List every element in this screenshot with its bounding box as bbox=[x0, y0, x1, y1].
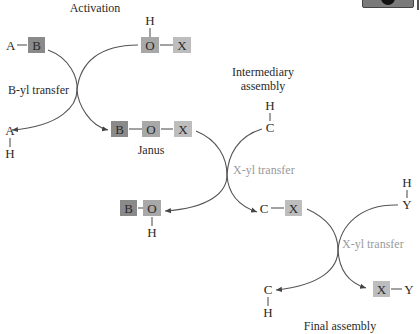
curve-to-CH bbox=[276, 209, 338, 290]
atom-H: H bbox=[265, 98, 274, 113]
atom-B: B bbox=[124, 201, 133, 216]
atom-X: X bbox=[178, 122, 188, 137]
molecule-H-Y: H Y bbox=[402, 175, 412, 212]
molecule-C-H: C H bbox=[263, 282, 272, 320]
atom-B: B bbox=[115, 122, 124, 137]
molecule-janus: B O X Janus bbox=[111, 121, 192, 157]
atom-H: H bbox=[147, 225, 156, 240]
transfer-label-B-yl: B-yl transfer bbox=[8, 83, 69, 97]
atom-H: H bbox=[402, 175, 411, 190]
curve-to-BOH bbox=[165, 131, 227, 211]
molecule-C-X: C X bbox=[260, 200, 302, 216]
molecule-A-B: A B bbox=[6, 37, 45, 53]
transfer-label-X-yl-2: X-yl transfer bbox=[342, 237, 404, 251]
atom-C: C bbox=[260, 201, 269, 216]
atom-X: X bbox=[289, 201, 299, 216]
stage-intermediary-label-line2: assembly bbox=[241, 79, 286, 93]
atom-X: X bbox=[377, 282, 387, 297]
molecule-H-C: H C bbox=[265, 98, 274, 135]
diagram-canvas: Activation Intermediary assembly Final a… bbox=[0, 0, 420, 334]
atom-X: X bbox=[177, 38, 187, 53]
atom-O: O bbox=[145, 38, 154, 53]
atom-H: H bbox=[263, 305, 272, 320]
atom-C: C bbox=[266, 120, 275, 135]
atom-A: A bbox=[5, 123, 15, 138]
stage-final-label: Final assembly bbox=[304, 319, 376, 333]
molecule-X-Y: X Y bbox=[373, 281, 414, 297]
atom-O: O bbox=[146, 122, 155, 137]
molecule-B-O-H: B O H bbox=[120, 200, 161, 240]
atom-H: H bbox=[5, 146, 14, 161]
atom-Y: Y bbox=[404, 282, 414, 297]
atom-A: A bbox=[6, 38, 16, 53]
molecule-H-O-X: H O X bbox=[141, 13, 191, 53]
transfer-label-X-yl-1: X-yl transfer bbox=[233, 163, 295, 177]
atom-H: H bbox=[145, 13, 154, 28]
atom-B: B bbox=[32, 38, 41, 53]
janus-label: Janus bbox=[138, 143, 165, 157]
atom-C: C bbox=[264, 282, 273, 297]
molecule-A-H: A H bbox=[5, 123, 15, 161]
atom-Y: Y bbox=[402, 197, 412, 212]
stage-activation-label: Activation bbox=[70, 1, 121, 15]
curve-to-janus bbox=[77, 45, 138, 130]
stage-intermediary-label-line1: Intermediary bbox=[232, 65, 294, 79]
atom-O: O bbox=[147, 201, 156, 216]
